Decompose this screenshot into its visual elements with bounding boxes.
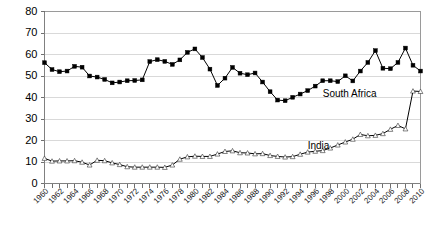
- data-point: [140, 78, 144, 82]
- data-point: [110, 81, 114, 85]
- data-point: [231, 66, 235, 70]
- data-point: [313, 84, 317, 88]
- data-point: [65, 69, 69, 73]
- y-tick-label: 60: [25, 48, 37, 60]
- data-point: [58, 70, 62, 74]
- data-point: [321, 79, 325, 83]
- data-point: [336, 80, 340, 84]
- x-tick-label: 1986: [227, 186, 246, 205]
- data-point: [351, 79, 355, 83]
- x-tick-label: 1968: [92, 186, 111, 205]
- data-point: [201, 56, 205, 60]
- data-point: [276, 98, 280, 102]
- data-point: [381, 131, 386, 135]
- data-point: [396, 123, 401, 127]
- data-point: [350, 137, 355, 141]
- x-tick-label: 1978: [167, 186, 186, 205]
- data-point: [388, 127, 393, 131]
- data-point: [155, 58, 159, 62]
- data-point: [389, 67, 393, 71]
- x-tick-label: 1982: [197, 186, 216, 205]
- data-point: [95, 75, 99, 79]
- line-chart: 01020304050607080 1960196219641966196819…: [0, 0, 436, 229]
- data-point: [358, 69, 362, 73]
- x-tick-label: 1962: [47, 186, 66, 205]
- x-tick-label: 2006: [377, 186, 396, 205]
- data-point: [125, 79, 129, 83]
- chart-container: 01020304050607080 1960196219641966196819…: [0, 0, 436, 229]
- data-point: [246, 73, 250, 77]
- x-tick-label: 1964: [62, 186, 81, 205]
- data-point: [223, 76, 227, 80]
- x-tick-label: 1988: [242, 186, 261, 205]
- x-tick-label: 1980: [182, 186, 201, 205]
- gridlines: [45, 12, 421, 163]
- x-tick-label: 1994: [287, 186, 306, 205]
- data-point: [373, 49, 377, 53]
- data-point: [193, 47, 197, 51]
- x-axis-ticks: 1960196219641966196819701972197419761978…: [31, 184, 426, 206]
- x-tick-label: 1990: [257, 186, 276, 205]
- x-tick-label: 2002: [347, 186, 366, 205]
- data-point: [133, 79, 137, 83]
- x-tick-label: 1966: [77, 186, 96, 205]
- x-tick-label: 1976: [152, 186, 171, 205]
- data-point: [381, 66, 385, 70]
- data-point: [419, 69, 423, 73]
- x-tick-label: 1960: [31, 186, 50, 205]
- data-point: [328, 79, 332, 83]
- data-point: [178, 58, 182, 62]
- series-label-india: India: [308, 140, 330, 151]
- x-tick-label: 1970: [107, 186, 126, 205]
- data-point: [50, 68, 54, 72]
- series-label-south-africa: South Africa: [323, 88, 377, 99]
- data-point: [298, 92, 302, 96]
- y-axis-ticks: 01020304050607080: [25, 5, 44, 189]
- x-tick-label: 1996: [302, 186, 321, 205]
- data-point: [216, 84, 220, 88]
- data-point: [88, 74, 92, 78]
- x-tick-label: 1972: [122, 186, 141, 205]
- y-tick-label: 70: [25, 26, 37, 38]
- x-tick-label: 1974: [137, 186, 156, 205]
- data-point: [283, 99, 287, 103]
- x-tick-label: 2008: [392, 186, 411, 205]
- data-point: [163, 59, 167, 63]
- data-point: [291, 95, 295, 99]
- data-point: [103, 78, 107, 82]
- data-point: [411, 63, 415, 67]
- data-point: [208, 67, 212, 71]
- data-point: [404, 46, 408, 50]
- data-point: [80, 65, 84, 69]
- data-point: [343, 74, 347, 78]
- y-tick-label: 10: [25, 155, 37, 167]
- x-tick-label: 2010: [407, 186, 426, 205]
- data-point: [261, 80, 265, 84]
- x-tick-label: 1984: [212, 186, 231, 205]
- y-tick-label: 20: [25, 134, 37, 146]
- y-tick-label: 40: [25, 91, 37, 103]
- y-tick-label: 0: [31, 177, 37, 189]
- data-point: [185, 50, 189, 54]
- x-tick-label: 2000: [332, 186, 351, 205]
- data-point: [253, 71, 257, 75]
- data-point: [306, 89, 310, 93]
- data-point: [396, 61, 400, 65]
- data-series: [42, 46, 423, 169]
- data-point: [42, 156, 47, 160]
- data-point: [118, 80, 122, 84]
- data-point: [403, 126, 408, 130]
- x-tick-label: 1998: [317, 186, 336, 205]
- y-tick-label: 80: [25, 5, 37, 17]
- x-tick-label: 1992: [272, 186, 291, 205]
- data-point: [43, 61, 47, 65]
- x-tick-label: 2004: [362, 186, 381, 205]
- data-point: [170, 62, 174, 66]
- y-tick-label: 30: [25, 112, 37, 124]
- data-point: [238, 71, 242, 75]
- y-tick-label: 50: [25, 69, 37, 81]
- data-point: [73, 64, 77, 68]
- series-line-india: [45, 91, 421, 167]
- data-point: [148, 60, 152, 64]
- data-point: [268, 90, 272, 94]
